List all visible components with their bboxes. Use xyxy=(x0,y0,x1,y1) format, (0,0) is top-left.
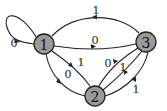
edge-1-to-1: 0 xyxy=(6,16,36,50)
node-label: 2 xyxy=(91,89,100,105)
node-label: 3 xyxy=(142,35,151,51)
edge-label: 0 xyxy=(92,34,99,47)
node-3: 3 xyxy=(136,32,156,52)
edge-label: 0 xyxy=(105,57,112,70)
node-1: 1 xyxy=(34,34,54,54)
edge-label: 1 xyxy=(120,61,127,74)
edge-label: 1 xyxy=(78,56,85,69)
edge-3-to-1: 1 xyxy=(52,4,139,37)
edge-label: 1 xyxy=(93,4,100,17)
arrowhead-icon xyxy=(68,62,73,67)
node-2: 2 xyxy=(85,86,105,106)
edge-label: 0 xyxy=(65,68,72,81)
edge-1-to-3: 0 xyxy=(54,34,136,50)
node-label: 1 xyxy=(40,37,49,53)
edge-label: 0 xyxy=(11,37,18,50)
state-diagram: 0 1 0 1 0 0 xyxy=(0,0,167,111)
edge-label: 1 xyxy=(133,83,140,96)
